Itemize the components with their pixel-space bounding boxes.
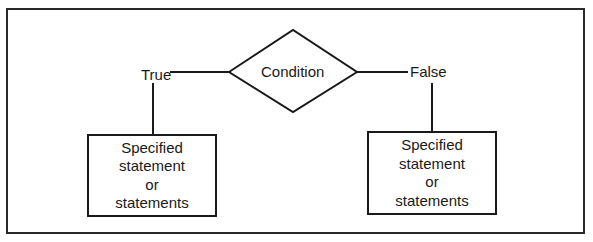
true-box-line-2: statement (119, 157, 185, 176)
true-label: True (141, 67, 171, 83)
false-box-line-1: Specified (401, 136, 463, 155)
false-label: False (410, 64, 447, 80)
true-box-line-4: statements (115, 194, 188, 213)
false-statement-box: Specified statement or statements (367, 131, 497, 215)
false-box-line-4: statements (395, 192, 468, 211)
false-box-line-3: or (425, 173, 438, 192)
true-statement-box: Specified statement or statements (87, 134, 217, 217)
condition-label: Condition (261, 64, 324, 80)
false-box-line-2: statement (399, 155, 465, 174)
true-box-line-1: Specified (121, 139, 183, 158)
true-box-line-3: or (145, 176, 158, 195)
